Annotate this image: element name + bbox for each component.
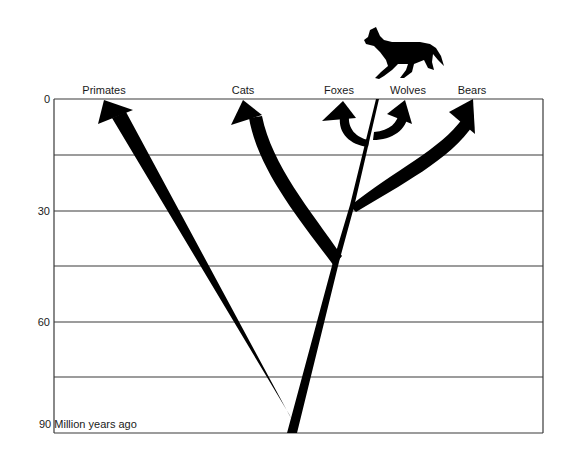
taxon-label-cats: Cats [232,84,255,96]
branch-cats [249,116,342,266]
taxon-label-primates: Primates [82,84,125,96]
taxon-label-wolves: Wolves [390,84,426,96]
wolf-silhouette-icon [364,27,444,79]
branch-foxes [340,117,369,147]
tick-label-60: 60 [38,316,50,328]
axis-bottom-label: 90 Million years ago [39,418,137,430]
arrowhead-foxes [322,101,356,121]
tick-label-0: 0 [44,93,50,105]
taxon-label-foxes: Foxes [324,84,354,96]
phylogenetic-tree-diagram: Primates Cats Foxes Wolves Bears 0 30 60… [0,0,569,454]
tick-label-30: 30 [38,205,50,217]
time-grid [54,99,543,433]
tree-graphic [0,0,569,454]
taxon-label-bears: Bears [458,84,487,96]
